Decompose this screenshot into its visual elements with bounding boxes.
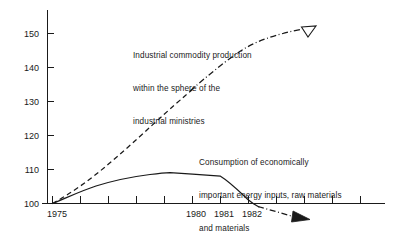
y-axis-tick-labels: 100 110 120 130 140 150: [24, 29, 39, 209]
y-tick-label-150: 150: [24, 29, 39, 39]
x-tick-label-1975: 1975: [47, 209, 67, 219]
annotation-consumption-line-3: and materials: [199, 223, 342, 234]
annotation-industrial-production: Industrial commodity production within t…: [133, 28, 252, 149]
y-tick-label-100: 100: [24, 199, 39, 209]
annotation-consumption: Consumption of economically important en…: [199, 135, 342, 234]
annotation-consumption-line-1: Consumption of economically: [199, 157, 342, 168]
annotation-industrial-production-line-1: Industrial commodity production: [133, 50, 252, 61]
chart-figure: 100 110 120 130 140 150 1975 1980 19: [0, 0, 397, 234]
annotation-industrial-production-line-2: within the sphere of the: [133, 83, 252, 94]
y-tick-label-140: 140: [24, 63, 39, 73]
annotation-consumption-line-2: important energy inputs, raw materials: [199, 190, 342, 201]
y-tick-label-120: 120: [24, 131, 39, 141]
series-industrial-production-arrowhead-icon: [302, 26, 317, 37]
y-tick-label-130: 130: [24, 97, 39, 107]
annotation-industrial-production-line-3: industrial ministries: [133, 116, 252, 127]
y-tick-label-110: 110: [25, 165, 39, 175]
